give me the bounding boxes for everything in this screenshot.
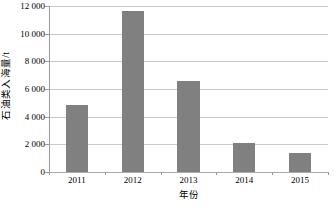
x-axis-tick-label: 2013 bbox=[180, 176, 198, 185]
x-axis-tick-mark bbox=[216, 172, 217, 175]
x-axis-tick-mark bbox=[272, 172, 273, 175]
bars-group bbox=[49, 6, 328, 172]
y-axis-tick-label: 6 000 bbox=[25, 85, 45, 94]
y-axis-tick-label: 10 000 bbox=[20, 29, 45, 38]
y-axis-tick-label: 4 000 bbox=[25, 112, 45, 121]
y-axis-title-label: 石油类入海量/t bbox=[2, 52, 12, 120]
x-axis-tick-label: 2015 bbox=[291, 176, 309, 185]
y-axis-tick-label: 12 000 bbox=[20, 2, 45, 11]
bar bbox=[289, 153, 311, 172]
y-axis-title: 石油类入海量/t bbox=[0, 0, 14, 172]
x-axis-tick-mark bbox=[328, 172, 329, 175]
x-axis-tick-label-group: 20112012201320142015 bbox=[49, 176, 328, 190]
y-axis-tick-label: 8 000 bbox=[25, 57, 45, 66]
x-axis-tick-label: 2011 bbox=[68, 176, 86, 185]
x-axis-title: 年份 bbox=[49, 191, 328, 201]
bar bbox=[233, 143, 255, 172]
bar bbox=[122, 11, 144, 172]
x-axis-tick-mark bbox=[105, 172, 106, 175]
x-axis-tick-mark bbox=[49, 172, 50, 175]
x-axis-tick-label: 2014 bbox=[235, 176, 253, 185]
bar bbox=[66, 105, 88, 173]
bar bbox=[177, 81, 199, 172]
y-axis-tick-label-group: 02 0004 0006 0008 00010 00012 000 bbox=[14, 0, 47, 172]
plot-area bbox=[49, 6, 328, 172]
bar-chart: 石油类入海量/t 02 0004 0006 0008 00010 00012 0… bbox=[0, 0, 334, 211]
y-axis-tick-label: 2 000 bbox=[25, 140, 45, 149]
x-axis-tick-label: 2012 bbox=[124, 176, 142, 185]
x-axis-tick-mark bbox=[161, 172, 162, 175]
